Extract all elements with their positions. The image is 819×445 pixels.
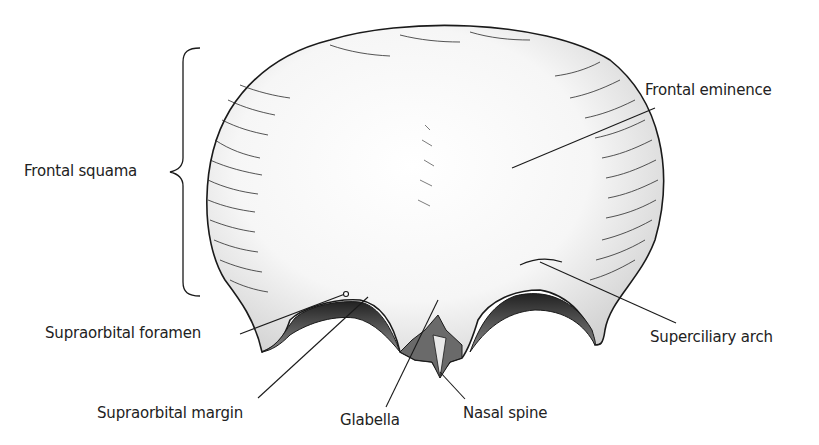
frontal-squama-brace xyxy=(170,48,200,296)
leader-nasal-spine xyxy=(440,372,465,399)
label-glabella: Glabella xyxy=(340,413,400,428)
label-supraorbital-margin: Supraorbital margin xyxy=(97,406,243,421)
label-nasal-spine: Nasal spine xyxy=(463,406,547,421)
label-frontal-eminence: Frontal eminence xyxy=(645,83,772,98)
frontal-bone-diagram: Frontal squama Frontal eminence Supraorb… xyxy=(0,0,819,445)
label-frontal-squama: Frontal squama xyxy=(24,164,137,179)
label-superciliary-arch: Superciliary arch xyxy=(650,330,773,345)
label-supraorbital-foramen: Supraorbital foramen xyxy=(45,326,201,341)
bone-illustration xyxy=(0,0,819,445)
